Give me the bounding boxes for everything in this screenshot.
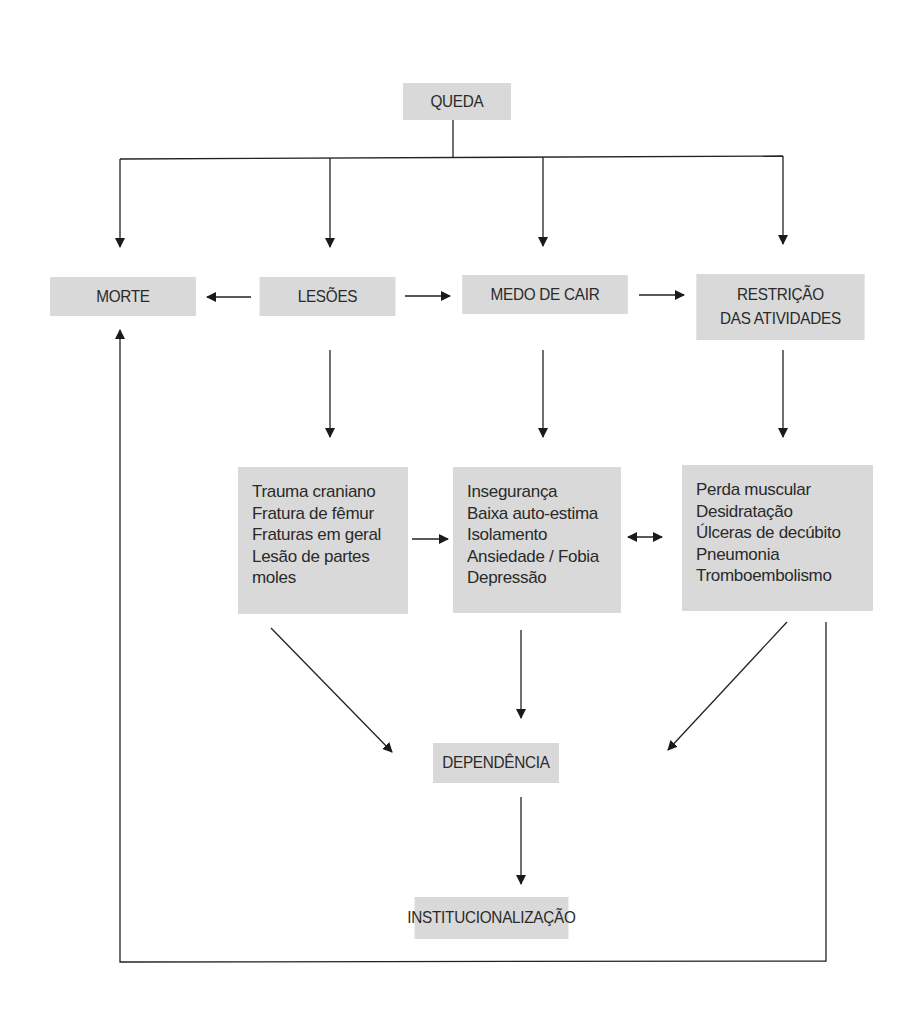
node-label-line: DAS ATIVIDADES xyxy=(720,307,841,331)
list-item: Desidratação xyxy=(696,501,793,523)
node-queda: QUEDA xyxy=(403,83,511,120)
list-item: Úlceras de decúbito xyxy=(696,522,841,544)
node-label: MEDO DE CAIR xyxy=(491,285,600,305)
node-morte: MORTE xyxy=(50,277,196,316)
arrow-lesoes-detail-to-dependencia xyxy=(271,628,392,752)
list-item: moles xyxy=(252,567,296,589)
node-medo-de-cair: MEDO DE CAIR xyxy=(462,275,628,314)
node-dependencia: DEPENDÊNCIA xyxy=(433,743,559,783)
list-item: Pneumonia xyxy=(696,544,779,566)
arrow-feedback-to-morte xyxy=(120,330,826,962)
node-label: INSTITUCIONALIZAÇÃO xyxy=(407,908,575,928)
node-label-line: RESTRIÇÃO xyxy=(737,283,824,307)
list-item: Fratura de fêmur xyxy=(252,503,374,525)
node-institucionalizacao: INSTITUCIONALIZAÇÃO xyxy=(415,897,569,939)
node-medo-detail: Insegurança Baixa auto-estima Isolamento… xyxy=(453,467,621,613)
node-lesoes-detail: Trauma craniano Fratura de fêmur Fratura… xyxy=(238,467,408,614)
list-item: Lesão de partes xyxy=(252,546,369,568)
list-item: Trauma craniano xyxy=(252,481,375,503)
queda-bus-line xyxy=(120,156,783,159)
list-item: Isolamento xyxy=(467,524,547,546)
node-restricao-detail: Perda muscular Desidratação Úlceras de d… xyxy=(682,465,873,611)
list-item: Perda muscular xyxy=(696,479,811,501)
list-item: Depressão xyxy=(467,567,547,589)
list-item: Tromboembolismo xyxy=(696,565,832,587)
node-label: DEPENDÊNCIA xyxy=(442,753,550,773)
arrow-restricao-detail-to-dependencia xyxy=(668,622,787,750)
node-label: MORTE xyxy=(96,287,150,307)
node-lesoes: LESÕES xyxy=(260,277,396,316)
node-label: LESÕES xyxy=(298,287,358,307)
list-item: Insegurança xyxy=(467,481,557,503)
list-item: Ansiedade / Fobia xyxy=(467,546,599,568)
list-item: Baixa auto-estima xyxy=(467,503,598,525)
list-item: Fraturas em geral xyxy=(252,524,381,546)
node-label: QUEDA xyxy=(430,92,483,112)
node-restricao-atividades: RESTRIÇÃO DAS ATIVIDADES xyxy=(696,274,864,340)
